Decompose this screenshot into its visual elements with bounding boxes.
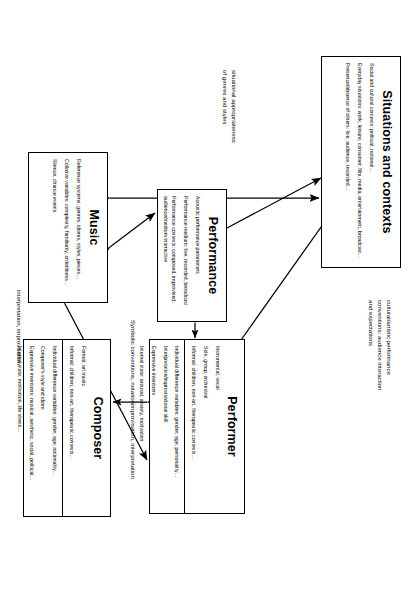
edge-performance-situations	[227, 178, 321, 228]
node-title: Composer	[91, 346, 105, 510]
node-composer-upper: Composer Formal: art music Informal: chi…	[62, 340, 110, 516]
node-line: Expressive intentions	[149, 346, 156, 507]
node-line: Performance medium: live, recorded, broa…	[181, 196, 188, 315]
node-body: Instrumental, vocal Solo, group, orchest…	[190, 346, 221, 507]
node-body: Formal: art music Informal: children, no…	[67, 346, 86, 510]
node-performer-lower: Individual difference variables: gender,…	[134, 340, 185, 513]
node-line: Performance contexts: composed, improvis…	[162, 196, 177, 315]
node-line: Solo, group, orchestral	[201, 346, 208, 507]
node-body: Individual difference variables: gender,…	[138, 346, 181, 507]
node-title: Music	[87, 159, 101, 296]
node-line: Acoustic performance parameters	[193, 196, 200, 315]
node-performance[interactable]: Performance Acoustic performance paramet…	[157, 189, 227, 322]
node-line: Composer's style and idiom	[39, 346, 46, 510]
node-composer[interactable]: Composer Formal: art music Informal: chi…	[23, 339, 111, 517]
edge-music-performance	[110, 213, 155, 247]
edge-label-interpretation-improvisation: interpretation, improvisation	[14, 290, 23, 420]
diagram-rotator: Situations and contexts Social and cultu…	[0, 0, 413, 610]
node-line: Silence, chance events	[51, 159, 58, 296]
node-title: Situations and contexts	[380, 63, 394, 261]
node-line: Individual difference variables: gender,…	[51, 346, 58, 510]
node-performer[interactable]: Performer Instrumental, vocal Solo, grou…	[149, 339, 245, 514]
node-line: Reference systems, genres, idioms, style…	[74, 159, 81, 296]
edge-label-cultural-conventions: cultural/artistic performance convention…	[367, 300, 393, 430]
node-line: Informal: children, non-art, therapeutic…	[67, 346, 74, 510]
node-body: Reference systems, genres, idioms, style…	[51, 159, 82, 296]
node-line: Social and cultural contexts: political,…	[367, 63, 374, 261]
node-body: Social and cultural contexts: political,…	[344, 63, 375, 261]
node-line: Internal state: arousal, anxiety, motiva…	[138, 346, 145, 507]
node-performer-upper: Performer Instrumental, vocal Solo, grou…	[185, 340, 245, 513]
diagram-canvas: Situations and contexts Social and cultu…	[0, 0, 413, 610]
node-body: Acoustic performance parameters Performa…	[162, 196, 201, 315]
edge-label-situational-appropriateness: situational appropriateness of genres an…	[220, 70, 238, 198]
node-line: Interpretative/improvisational skill	[161, 346, 168, 507]
node-title: Performer	[225, 346, 239, 507]
edge-label-symbolic-conventions: Symbolic conventions, notation	[128, 300, 137, 404]
node-line: Formal: art music	[79, 346, 86, 510]
node-line: Collative variables: complexity, familia…	[62, 159, 69, 296]
node-line: Instrumental, vocal	[213, 346, 220, 507]
node-line: Everyday situations: work, leisure, cons…	[355, 63, 362, 261]
node-line: Expressive intentions: musical, aestheti…	[27, 346, 34, 510]
node-line: Individual difference variables: gender,…	[173, 346, 180, 507]
node-title: Performance	[206, 196, 220, 315]
node-line: Presence/absence of others: live, audien…	[344, 63, 351, 261]
node-situations-and-contexts[interactable]: Situations and contexts Social and cultu…	[321, 56, 401, 268]
edge-label-improvisation-interpretation: improvisation, interpretation	[128, 404, 137, 514]
node-music[interactable]: Music Reference systems, genres, idioms,…	[28, 152, 108, 303]
node-line: Informal: children, non-art, therapeutic…	[190, 346, 197, 507]
